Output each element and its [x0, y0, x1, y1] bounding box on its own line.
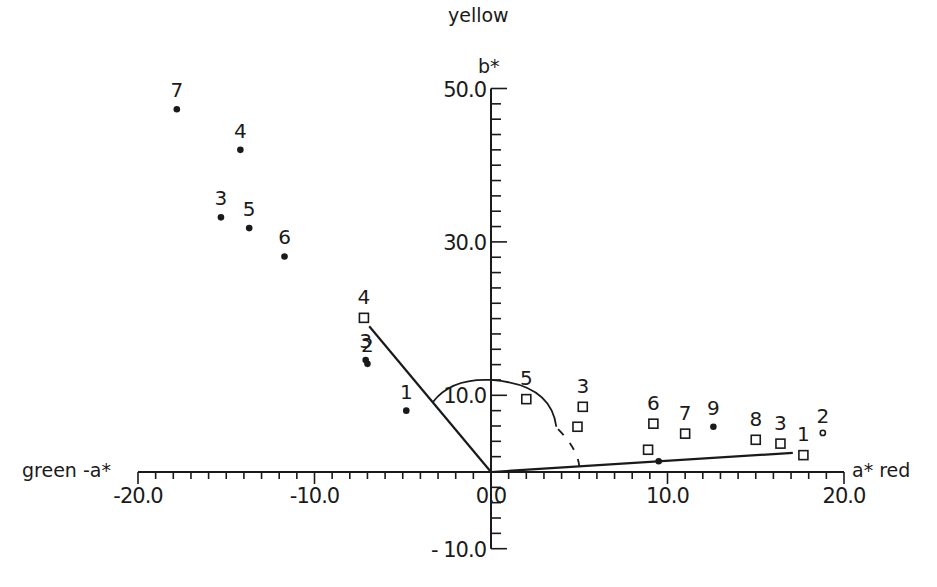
- data-point-square: [681, 429, 690, 438]
- data-point-dot: [364, 361, 371, 368]
- hue-line: [491, 453, 793, 472]
- point-label: 3: [774, 411, 787, 435]
- data-point-square: [649, 419, 658, 428]
- point-label: 5: [520, 366, 533, 390]
- point-label: 6: [647, 391, 660, 415]
- data-point-square: [799, 451, 808, 460]
- data-point-square: [751, 435, 760, 444]
- x-tick-label: 10.0: [646, 484, 689, 508]
- point-label: 4: [234, 119, 247, 143]
- point-label: 2: [816, 404, 829, 428]
- data-point-square: [644, 445, 653, 454]
- x-axis-label-green: green -a*: [22, 459, 111, 481]
- data-point-dot: [710, 423, 717, 430]
- point-label: 7: [170, 78, 183, 102]
- data-point-square: [573, 422, 582, 431]
- data-point-square: [359, 313, 368, 322]
- data-point-square: [522, 395, 531, 404]
- point-label: 5: [243, 197, 256, 221]
- y-axis-symbol-b: b*: [478, 55, 500, 77]
- point-label: 3: [215, 186, 228, 210]
- x-tick-label: 20.0: [823, 484, 866, 508]
- data-point-square: [776, 439, 785, 448]
- data-point-dot: [237, 147, 244, 154]
- y-tick-label: - 10.0: [431, 538, 486, 562]
- point-label: 8: [749, 407, 762, 431]
- point-label: 7: [679, 401, 692, 425]
- data-point-dot: [655, 458, 662, 465]
- point-label: 6: [278, 225, 291, 249]
- point-label: 4: [358, 285, 371, 309]
- chroma-arc-dashed: [558, 429, 579, 466]
- point-label: 9: [707, 396, 720, 420]
- data-point-dot: [218, 214, 225, 221]
- point-label: 3: [576, 374, 589, 398]
- data-point-dot: [403, 407, 410, 414]
- data-point-dot: [246, 225, 253, 232]
- data-point-square: [578, 402, 587, 411]
- y-axis-label-yellow: yellow: [448, 4, 509, 26]
- point-label: 2: [361, 333, 374, 357]
- data-points: 743563219453678312: [170, 78, 829, 464]
- x-tick-label: -10.0: [290, 484, 339, 508]
- y-tick-label: 50.0: [443, 78, 486, 102]
- x-tick-label: -20.0: [113, 484, 162, 508]
- point-label: 1: [400, 380, 413, 404]
- point-label: 1: [797, 422, 810, 446]
- x-axis-label-red: a* red: [852, 459, 910, 481]
- axes: -20.0-10.00.010.020.050.030.010.0- 10.0: [113, 78, 865, 562]
- data-point-circle: [820, 430, 825, 435]
- data-point-dot: [281, 253, 288, 260]
- lab-color-chart: -20.0-10.00.010.020.050.030.010.0- 10.0 …: [0, 0, 937, 587]
- hue-lines: [369, 326, 793, 472]
- data-point-dot: [174, 106, 181, 113]
- y-tick-label: 30.0: [443, 231, 486, 255]
